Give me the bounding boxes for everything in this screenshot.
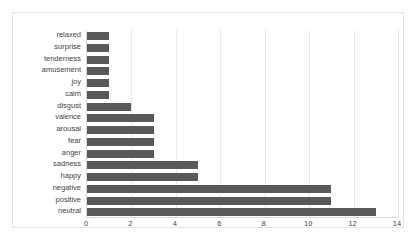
bar-rows: relaxedsurprisetendernessamusementjoycal… (87, 30, 398, 217)
x-tick-label-8: 8 (262, 219, 266, 228)
bar-neutral (87, 208, 376, 216)
x-tick-label-2: 2 (128, 219, 132, 228)
bar-surprise (87, 44, 109, 52)
chart-frame: relaxedsurprisetendernessamusementjoycal… (12, 12, 404, 228)
bar-calm (87, 91, 109, 99)
bar-row: fear (87, 136, 398, 148)
bar-valence (87, 114, 154, 122)
x-tick-label-4: 4 (173, 219, 177, 228)
bar-chart-figure: relaxedsurprisetendernessamusementjoycal… (0, 0, 419, 240)
bar-fear (87, 138, 154, 146)
bar-row: surprise (87, 42, 398, 54)
category-label-valence: valence (0, 111, 81, 123)
bar-amusement (87, 67, 109, 75)
category-label-amusement: amusement (0, 64, 81, 76)
bar-disgust (87, 103, 131, 111)
bar-row: amusement (87, 65, 398, 77)
bar-row: disgust (87, 101, 398, 113)
category-label-tenderness: tenderness (0, 53, 81, 65)
bar-tenderness (87, 56, 109, 64)
bar-row: valence (87, 112, 398, 124)
plot-area: relaxedsurprisetendernessamusementjoycal… (86, 30, 398, 218)
bar-row: sadness (87, 159, 398, 171)
bar-negative (87, 185, 331, 193)
category-label-fear: fear (0, 135, 81, 147)
bar-row: arousal (87, 124, 398, 136)
bar-row: positive (87, 195, 398, 207)
category-label-negative: negative (0, 182, 81, 194)
gridline-14 (398, 30, 399, 217)
bar-row: calm (87, 89, 398, 101)
category-label-neutral: neutral (0, 205, 81, 217)
bar-row: happy (87, 171, 398, 183)
category-label-disgust: disgust (0, 100, 81, 112)
category-label-surprise: surprise (0, 41, 81, 53)
x-axis-tick-labels: 02468101214 (86, 219, 398, 235)
category-label-arousal: arousal (0, 123, 81, 135)
bar-row: joy (87, 77, 398, 89)
category-label-sadness: sadness (0, 158, 81, 170)
bar-happy (87, 173, 198, 181)
x-tick-label-10: 10 (304, 219, 312, 228)
bar-row: negative (87, 183, 398, 195)
bar-relaxed (87, 32, 109, 40)
bar-arousal (87, 126, 154, 134)
bar-row: relaxed (87, 30, 398, 42)
bar-row: anger (87, 148, 398, 160)
bar-sadness (87, 161, 198, 169)
x-tick-label-14: 14 (393, 219, 401, 228)
category-label-happy: happy (0, 170, 81, 182)
x-tick-label-12: 12 (348, 219, 356, 228)
bar-anger (87, 150, 154, 158)
category-label-calm: calm (0, 88, 81, 100)
x-tick-label-6: 6 (217, 219, 221, 228)
bar-row: tenderness (87, 54, 398, 66)
x-tick-label-0: 0 (84, 219, 88, 228)
category-label-relaxed: relaxed (0, 29, 81, 41)
category-label-positive: positive (0, 194, 81, 206)
bar-row: neutral (87, 206, 398, 218)
bar-joy (87, 79, 109, 87)
category-label-anger: anger (0, 147, 81, 159)
bar-positive (87, 197, 331, 205)
category-label-joy: joy (0, 76, 81, 88)
